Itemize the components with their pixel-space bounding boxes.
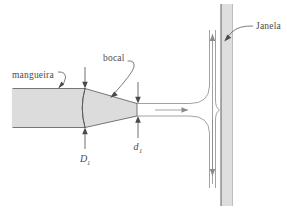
jet-wall-lower-inner: [216, 110, 220, 188]
hose-label: mangueira: [12, 70, 54, 80]
water-jet-group: [137, 30, 220, 188]
dimension-d1-subscript: 1: [139, 147, 142, 154]
nozzle-leader-line: [112, 61, 134, 96]
jet-flow-arrow: [155, 107, 188, 113]
nozzle-leader-group: [110, 61, 134, 98]
dimension-d1-label: d 1: [134, 141, 143, 154]
dimension-D1-subscript: 1: [87, 159, 90, 166]
window-wall-band: [221, 4, 233, 206]
hose-leader-group: [58, 72, 66, 89]
figure-container: mangueira bocal Janela D 1 d 1: [0, 0, 287, 210]
hose-group: [13, 89, 86, 128]
window-label: Janela: [256, 21, 282, 31]
nozzle-group: [82, 89, 137, 128]
nozzle-body: [82, 89, 137, 128]
jet-lower-boundary: [137, 116, 210, 188]
jet-wall-upper-inner: [216, 30, 220, 110]
wall-flow-arrow-down-head: [210, 169, 216, 176]
hose-leader-arrow-head: [58, 81, 64, 88]
nozzle-label: bocal: [103, 53, 125, 63]
dimension-D1-top-arrow-head: [82, 82, 88, 89]
hose-nozzle-window-diagram: mangueira bocal Janela D 1 d 1: [0, 0, 287, 210]
dimension-d1-bottom-arrow-head: [135, 116, 141, 123]
hose-body: [13, 89, 86, 128]
wall-flow-arrow-up-head: [210, 34, 216, 41]
dimension-D1-label: D 1: [79, 153, 90, 166]
dimension-D1-bottom-arrow-head: [82, 128, 88, 135]
jet-flow-arrow-head: [182, 107, 189, 113]
jet-upper-boundary: [137, 30, 210, 104]
window-wall-group: [221, 4, 233, 206]
wall-flow-arrow-down: [210, 120, 216, 176]
dimension-d1-top-arrow-head: [135, 97, 141, 104]
